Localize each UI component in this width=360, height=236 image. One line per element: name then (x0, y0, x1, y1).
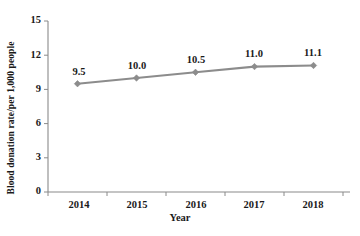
y-tick-label-3: 3 (36, 151, 41, 162)
x-tick-label-2017: 2017 (244, 199, 265, 210)
y-tick-label-9: 9 (36, 83, 41, 94)
blood-donation-rate-line-chart: Blood donation rate/per 1,000 people 0 3… (0, 0, 360, 236)
data-point-2015 (133, 75, 139, 81)
data-label-2014: 9.5 (72, 66, 85, 77)
x-tick-label-2014: 2014 (69, 199, 91, 210)
data-label-2017: 11.0 (245, 48, 263, 59)
x-tick-marks (48, 192, 343, 196)
y-tick-label-15: 15 (31, 14, 42, 25)
data-point-2018 (310, 62, 316, 68)
plot-area: 0 3 6 9 12 15 2014 2015 2016 2017 2018 9… (0, 0, 360, 236)
data-point-2014 (74, 81, 80, 87)
x-axis-title: Year (0, 212, 360, 223)
x-tick-label-2018: 2018 (303, 199, 324, 210)
y-tick-label-12: 12 (31, 49, 42, 60)
y-tick-label-6: 6 (36, 117, 41, 128)
data-label-2015: 10.0 (128, 60, 146, 71)
x-tick-label-2016: 2016 (186, 199, 207, 210)
y-tick-marks (44, 21, 48, 192)
y-tick-label-0: 0 (36, 185, 41, 196)
x-tick-label-2015: 2015 (127, 199, 148, 210)
data-label-2016: 10.5 (187, 54, 205, 65)
data-point-2017 (251, 63, 257, 69)
data-point-2016 (192, 69, 198, 75)
data-label-2018: 11.1 (304, 47, 322, 58)
